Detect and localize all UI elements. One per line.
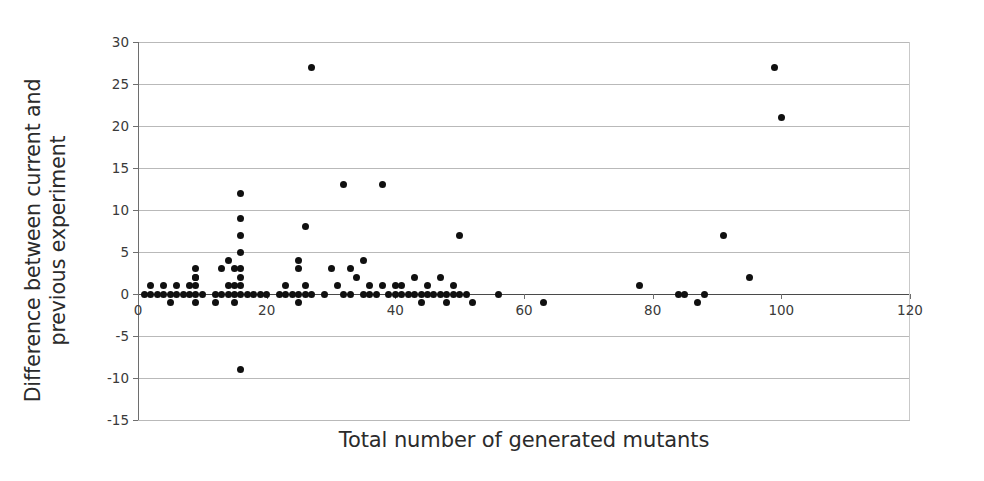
data-point (720, 232, 727, 239)
x-axis-tick-mark (524, 294, 525, 299)
plot-area: -15-10-5051015202530020406080100120 (138, 42, 910, 420)
data-point (237, 215, 244, 222)
x-axis-tick-label: 0 (134, 302, 143, 318)
y-axis-tick-label: 20 (112, 118, 129, 134)
data-point (218, 265, 225, 272)
data-point (295, 299, 302, 306)
y-axis-tick-label: 15 (112, 160, 129, 176)
data-point (192, 282, 199, 289)
data-point (192, 265, 199, 272)
data-point (424, 282, 431, 289)
y-axis-tick-label: 30 (112, 34, 129, 50)
x-axis-tick-mark (781, 294, 782, 299)
data-point (443, 299, 450, 306)
data-point (231, 299, 238, 306)
y-axis-tick-label: 10 (112, 202, 129, 218)
gridline-horizontal (138, 378, 910, 379)
gridline-horizontal (138, 336, 910, 337)
y-axis-title: Difference between current and previous … (0, 0, 92, 481)
x-axis-tick-label: 40 (387, 302, 404, 318)
x-axis-tick-mark (653, 294, 654, 299)
data-point (199, 291, 206, 298)
data-point (237, 249, 244, 256)
gridline-horizontal (138, 210, 910, 211)
data-point (746, 274, 753, 281)
y-axis-tick-label: -10 (107, 370, 129, 386)
gridline-horizontal (138, 42, 910, 43)
data-point (347, 291, 354, 298)
data-point (237, 190, 244, 197)
y-axis-tick-label: 25 (112, 76, 129, 92)
x-axis-tick-label: 120 (897, 302, 923, 318)
data-point (192, 274, 199, 281)
data-point (437, 274, 444, 281)
gridline-horizontal (138, 252, 910, 253)
gridline-horizontal (138, 126, 910, 127)
x-axis-tick-label: 80 (644, 302, 661, 318)
data-point (694, 299, 701, 306)
data-point (334, 282, 341, 289)
x-axis-tick-label: 60 (515, 302, 532, 318)
data-point (778, 114, 785, 121)
data-point (366, 282, 373, 289)
y-axis-tick-label: -5 (116, 328, 129, 344)
data-point (321, 291, 328, 298)
data-point (282, 282, 289, 289)
data-point (167, 299, 174, 306)
data-point (237, 366, 244, 373)
y-axis-title-line-2: previous experiment (46, 79, 71, 403)
data-point (411, 274, 418, 281)
data-point (681, 291, 688, 298)
data-point (469, 299, 476, 306)
data-point (353, 274, 360, 281)
plot-right-border (909, 42, 910, 420)
data-point (456, 232, 463, 239)
y-axis-tick-label: 5 (120, 244, 129, 260)
data-point (340, 181, 347, 188)
data-point (212, 299, 219, 306)
data-point (225, 257, 232, 264)
y-axis-tick-label: -15 (107, 412, 129, 428)
scatter-plot-figure: Difference between current and previous … (0, 0, 984, 481)
data-point (173, 282, 180, 289)
data-point (373, 291, 380, 298)
data-point (636, 282, 643, 289)
gridline-horizontal (138, 420, 910, 421)
data-point (308, 64, 315, 71)
x-axis-tick-label: 20 (258, 302, 275, 318)
data-point (160, 282, 167, 289)
data-point (450, 282, 457, 289)
y-axis-title-line-1: Difference between current and (21, 79, 46, 403)
data-point (398, 282, 405, 289)
data-point (237, 282, 244, 289)
data-point (308, 291, 315, 298)
gridline-horizontal (138, 168, 910, 169)
data-point (237, 265, 244, 272)
data-point (302, 223, 309, 230)
y-axis-tick-mark (133, 420, 138, 421)
data-point (263, 291, 270, 298)
data-point (192, 299, 199, 306)
data-point (147, 282, 154, 289)
data-point (463, 291, 470, 298)
data-point (295, 265, 302, 272)
data-point (495, 291, 502, 298)
data-point (360, 257, 367, 264)
data-point (302, 282, 309, 289)
data-point (418, 299, 425, 306)
data-point (540, 299, 547, 306)
data-point (328, 265, 335, 272)
data-point (701, 291, 708, 298)
y-axis-line (138, 42, 139, 420)
data-point (771, 64, 778, 71)
data-point (379, 181, 386, 188)
data-point (347, 265, 354, 272)
data-point (237, 274, 244, 281)
data-point (237, 232, 244, 239)
x-axis-tick-label: 100 (768, 302, 794, 318)
data-point (295, 257, 302, 264)
x-axis-title: Total number of generated mutants (138, 428, 910, 452)
data-point (379, 282, 386, 289)
y-axis-tick-label: 0 (120, 286, 129, 302)
x-axis-tick-mark (910, 294, 911, 299)
